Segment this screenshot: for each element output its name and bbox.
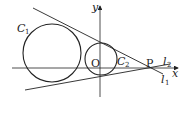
geometry-diagram: y x O C 1 C 2 P l 2 l 1: [0, 0, 187, 114]
svg-text:2: 2: [125, 61, 129, 69]
circle-c1-label: C 1: [17, 22, 29, 36]
y-axis-label: y: [91, 1, 99, 14]
line-l2-label: l 2: [163, 55, 171, 69]
x-axis-label: x: [172, 67, 179, 80]
origin-label: O: [91, 57, 100, 70]
svg-text:1: 1: [165, 79, 169, 87]
circle-c2-label: C 2: [117, 55, 129, 69]
svg-text:1: 1: [25, 28, 29, 36]
point-p-label: P: [146, 57, 154, 70]
circle-c1: [23, 24, 81, 82]
svg-text:2: 2: [167, 61, 171, 69]
line-l1-label: l 1: [161, 73, 169, 87]
